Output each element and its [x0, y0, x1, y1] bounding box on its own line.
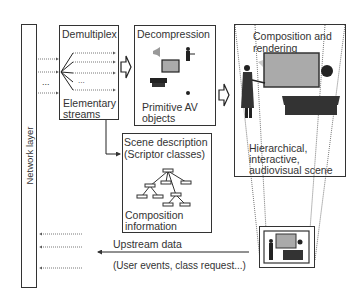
user-thumbnail-scene	[0, 0, 364, 298]
